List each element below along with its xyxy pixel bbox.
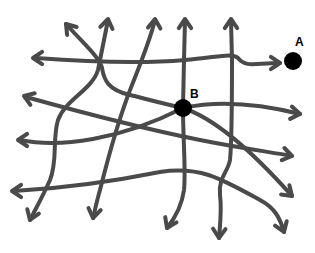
arrow-path: [36, 55, 280, 64]
arrow-path: [14, 170, 284, 232]
node-b: [174, 99, 192, 117]
node-a-label: A: [295, 35, 304, 49]
arrow-path: [167, 20, 185, 228]
node-a: [284, 52, 302, 70]
path-network-diagram: A B: [0, 0, 315, 253]
node-b-label: B: [190, 87, 199, 101]
